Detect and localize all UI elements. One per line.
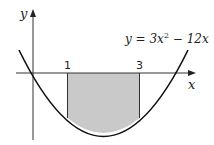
y-axis-label: y bbox=[19, 6, 28, 21]
y-axis-arrow-icon bbox=[30, 9, 36, 17]
x-axis-label: x bbox=[188, 77, 196, 92]
equation-label: y = 3x2 − 12x bbox=[124, 31, 209, 46]
bound-label-3: 3 bbox=[136, 59, 143, 72]
graph: y x 1 3 y = 3x2 − 12x bbox=[0, 0, 214, 145]
bound-label-1: 1 bbox=[64, 59, 71, 72]
shaded-region bbox=[68, 73, 140, 133]
x-axis-arrow-icon bbox=[188, 70, 196, 76]
